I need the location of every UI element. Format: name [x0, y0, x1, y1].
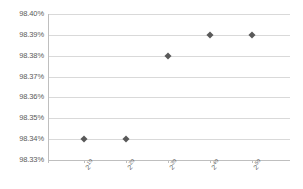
x-axis-tick-label: 240 [210, 159, 223, 172]
x-axis-tick-mark [168, 160, 169, 163]
x-axis-tick-mark [126, 160, 127, 163]
x-axis-tick-label: 230 [168, 159, 181, 172]
x-axis-tick-label: 220 [126, 159, 139, 172]
x-axis-origin-tick [48, 160, 49, 163]
x-axis-tick-labels: 210220230240250 [0, 0, 303, 189]
x-axis-tick-mark [84, 160, 85, 163]
x-axis-tick-mark [252, 160, 253, 163]
x-axis-tick-mark [210, 160, 211, 163]
x-axis-tick-label: 250 [252, 159, 265, 172]
scatter-chart: 98.40%98.39%98.38%98.37%98.36%98.35%98.3… [0, 0, 303, 189]
x-axis-tick-label: 210 [84, 159, 97, 172]
